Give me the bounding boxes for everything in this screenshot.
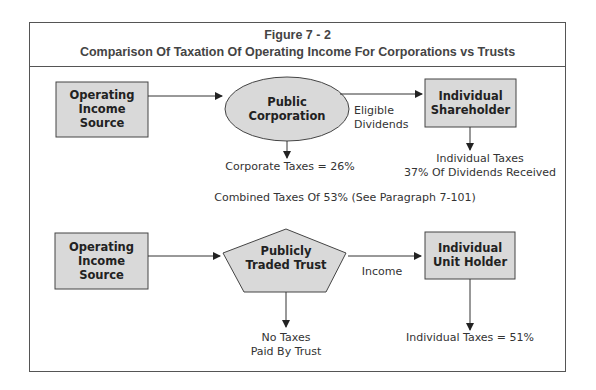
corporate-tax-label: Corporate Taxes = 26% <box>220 160 360 174</box>
unitholder-tax-label: Individual Taxes = 51% <box>395 331 545 345</box>
source-label-trust: Operating Income Source <box>55 240 148 282</box>
trust-tax-label: No Taxes Paid By Trust <box>236 331 336 359</box>
shareholder-label: Individual Shareholder <box>425 89 516 117</box>
shareholder-tax-label: Individual Taxes 37% Of Dividends Receiv… <box>390 152 570 180</box>
eligible-dividends-label: Eligible Dividends <box>354 104 424 132</box>
unitholder-label: Individual Unit Holder <box>425 241 515 269</box>
income-edge-label: Income <box>352 265 412 279</box>
corporation-label: Public Corporation <box>225 95 349 123</box>
source-label-corp: Operating Income Source <box>56 88 148 130</box>
combined-taxes-note: Combined Taxes Of 53% (See Paragraph 7-1… <box>200 191 490 205</box>
trust-label: Publicly Traded Trust <box>236 244 336 272</box>
